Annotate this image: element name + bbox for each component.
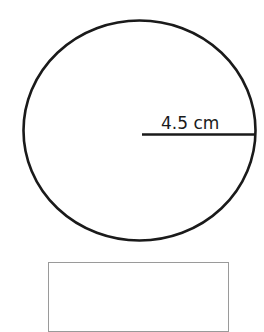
circle <box>24 21 256 241</box>
radius-label: 4.5 cm <box>161 113 219 133</box>
answer-box[interactable] <box>48 262 229 332</box>
